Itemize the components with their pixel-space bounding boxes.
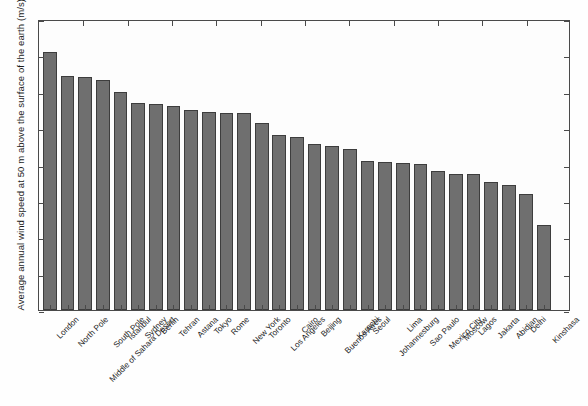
x-tick-mark-bottom	[68, 305, 69, 310]
x-category-label: Rome	[230, 315, 252, 337]
bar	[237, 113, 251, 310]
y-tick-mark-right	[564, 21, 569, 22]
x-tick-mark-top	[83, 21, 84, 26]
x-tick-mark-bottom	[544, 305, 545, 310]
x-tick-mark-bottom	[191, 305, 192, 310]
y-tick-mark-right	[564, 239, 569, 240]
x-tick-mark-top	[305, 21, 306, 26]
y-tick-mark-right	[564, 57, 569, 58]
x-tick-mark-bottom	[262, 305, 263, 310]
bar	[449, 174, 463, 310]
x-tick-mark-top	[527, 21, 528, 26]
y-tick-mark	[39, 94, 44, 95]
y-tick-mark	[39, 57, 44, 58]
bar	[167, 106, 181, 310]
x-tick-mark-bottom	[350, 305, 351, 310]
x-tick-mark-bottom	[403, 305, 404, 310]
wind-speed-bar-chart: Average annual wind speed at 50 m above …	[0, 0, 588, 406]
x-tick-mark-bottom	[368, 305, 369, 310]
x-tick-mark-top	[261, 21, 262, 26]
x-tick-mark-bottom	[226, 305, 227, 310]
x-tick-mark-bottom	[244, 305, 245, 310]
x-category-label: London	[55, 315, 81, 341]
y-tick-mark-right	[564, 94, 569, 95]
bar	[114, 92, 128, 310]
bar	[325, 146, 339, 310]
bar	[272, 135, 286, 310]
x-tick-mark-bottom	[491, 305, 492, 310]
bar	[61, 76, 75, 310]
x-tick-mark-bottom	[526, 305, 527, 310]
bar	[43, 52, 57, 310]
bar	[519, 194, 533, 310]
x-tick-mark-bottom	[138, 305, 139, 310]
bar	[184, 110, 198, 310]
bar	[431, 171, 445, 310]
x-tick-mark-bottom	[456, 305, 457, 310]
x-tick-mark-top	[216, 21, 217, 26]
bar	[414, 164, 428, 310]
plot-area	[38, 20, 570, 311]
bar	[131, 103, 145, 310]
bar	[467, 174, 481, 310]
bar	[378, 162, 392, 310]
x-tick-mark-bottom	[332, 305, 333, 310]
y-tick-mark	[39, 276, 44, 277]
x-tick-mark-top	[128, 21, 129, 26]
x-category-label: Kinshasa	[551, 315, 581, 345]
bar	[502, 185, 516, 310]
bar	[484, 182, 498, 310]
bar	[202, 112, 216, 310]
y-tick-mark-right	[564, 276, 569, 277]
bar	[78, 77, 92, 310]
x-tick-mark-bottom	[121, 305, 122, 310]
y-tick-mark-right	[564, 167, 569, 168]
x-tick-mark-bottom	[420, 305, 421, 310]
y-tick-mark	[39, 203, 44, 204]
x-tick-mark-bottom	[473, 305, 474, 310]
x-tick-mark-bottom	[85, 305, 86, 310]
x-tick-mark-bottom	[438, 305, 439, 310]
bar-series	[39, 21, 569, 310]
x-tick-mark-top	[482, 21, 483, 26]
y-tick-mark-right	[564, 203, 569, 204]
y-tick-mark	[39, 167, 44, 168]
x-tick-mark-bottom	[209, 305, 210, 310]
y-tick-mark-right	[564, 130, 569, 131]
x-tick-mark-top	[438, 21, 439, 26]
x-tick-mark-bottom	[103, 305, 104, 310]
x-tick-mark-bottom	[385, 305, 386, 310]
bar	[537, 225, 551, 310]
x-tick-mark-bottom	[315, 305, 316, 310]
bar	[343, 149, 357, 310]
y-tick-mark	[39, 21, 44, 22]
x-tick-mark-bottom	[509, 305, 510, 310]
x-tick-mark-bottom	[50, 305, 51, 310]
bar	[149, 104, 163, 310]
x-tick-mark-bottom	[173, 305, 174, 310]
x-tick-mark-top	[172, 21, 173, 26]
x-axis-category-labels: LondonNorth PoleMiddle of Sahara DesertS…	[38, 311, 570, 406]
bar	[396, 163, 410, 310]
x-tick-mark-top	[394, 21, 395, 26]
bar	[255, 123, 269, 310]
x-tick-mark-bottom	[279, 305, 280, 310]
bar	[96, 80, 110, 310]
bar	[308, 144, 322, 310]
x-tick-mark-bottom	[297, 305, 298, 310]
y-tick-mark	[39, 239, 44, 240]
bar	[220, 113, 234, 310]
bar	[290, 137, 304, 310]
x-tick-mark-bottom	[156, 305, 157, 310]
bar	[361, 161, 375, 310]
y-axis-title: Average annual wind speed at 50 m above …	[15, 11, 26, 311]
x-category-label: North Pole	[76, 315, 110, 349]
y-tick-mark	[39, 130, 44, 131]
x-tick-mark-top	[349, 21, 350, 26]
